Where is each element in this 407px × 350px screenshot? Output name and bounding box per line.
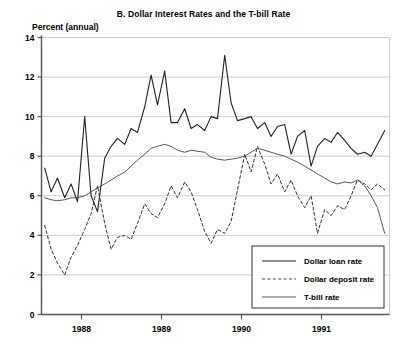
x-tick-label: 1988 [72, 324, 91, 334]
series-line [45, 55, 385, 211]
y-tick-label: 12 [25, 72, 35, 82]
y-axis-ticks: 02468101214 [25, 33, 41, 320]
plot-area: 02468101214 1988198919901991 Dollar loan… [0, 0, 407, 350]
y-tick-label: 6 [30, 191, 35, 201]
chart-legend: Dollar loan rateDollar deposit rateT-bil… [252, 246, 384, 308]
x-tick-label: 1991 [312, 324, 331, 334]
chart-figure: B. Dollar Interest Rates and the T-bill … [0, 0, 407, 350]
legend-item-label: T-bill rate [304, 293, 340, 302]
x-tick-label: 1989 [152, 324, 171, 334]
y-tick-label: 8 [30, 151, 35, 161]
legend-item-label: Dollar loan rate [304, 257, 363, 266]
legend-item-label: Dollar deposit rate [304, 275, 375, 284]
x-axis-ticks: 1988198919901991 [72, 315, 331, 334]
data-series [45, 55, 385, 275]
y-tick-label: 4 [30, 230, 35, 240]
x-tick-label: 1990 [232, 324, 251, 334]
series-line [45, 144, 385, 233]
y-tick-label: 0 [30, 310, 35, 320]
y-tick-label: 10 [25, 112, 35, 122]
y-tick-label: 2 [30, 270, 35, 280]
y-tick-label: 14 [25, 33, 35, 43]
